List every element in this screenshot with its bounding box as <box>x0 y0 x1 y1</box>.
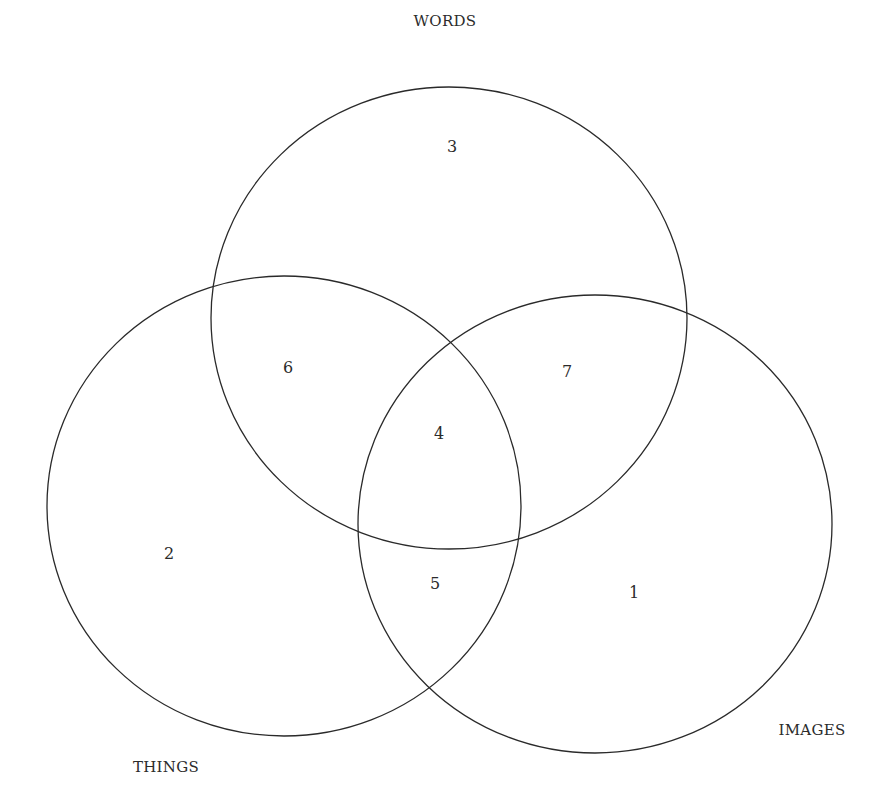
words-circle <box>211 87 687 549</box>
region-words-things: 6 <box>283 358 293 377</box>
things-circle <box>47 276 521 736</box>
venn-circles <box>0 0 890 800</box>
region-things-only: 2 <box>164 544 174 563</box>
region-words-only: 3 <box>447 137 457 156</box>
region-all-three: 4 <box>434 424 444 443</box>
region-words-images: 7 <box>562 362 572 381</box>
set-label-things: THINGS <box>133 758 199 776</box>
set-label-words: WORDS <box>414 12 477 30</box>
region-things-images: 5 <box>430 574 440 593</box>
images-circle <box>358 295 832 753</box>
set-label-images: IMAGES <box>778 721 845 739</box>
venn-diagram: WORDS THINGS IMAGES 3 2 1 6 7 5 4 <box>0 0 890 800</box>
region-images-only: 1 <box>629 583 639 602</box>
